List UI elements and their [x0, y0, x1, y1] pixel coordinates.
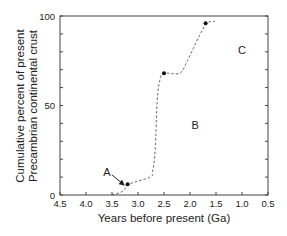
y-tick-label: 0	[50, 190, 55, 201]
plot-border	[60, 16, 268, 195]
y-axis-title-line-1: Cumulative percent of present	[14, 28, 26, 182]
annotation-c: C	[238, 44, 246, 56]
data-point-marker	[162, 71, 166, 75]
y-axis-ticks: 050100	[39, 11, 268, 201]
annotations: ABC	[103, 44, 246, 185]
x-tick-label: 2.5	[157, 198, 170, 209]
y-axis-title: Cumulative percent of present Precambria…	[14, 28, 39, 182]
y-axis-title-line-2: Precambrian continental crust	[27, 29, 39, 182]
plot-frame	[60, 16, 268, 195]
y-tick-label: 50	[44, 100, 55, 111]
y-tick-label: 100	[39, 11, 55, 22]
x-tick-label: 0.5	[261, 198, 274, 209]
data-point-marker	[204, 21, 208, 25]
x-axis-title: Years before present (Ga)	[98, 212, 231, 224]
x-tick-label: 2.0	[183, 198, 196, 209]
x-tick-label: 3.5	[105, 198, 118, 209]
x-tick-label: 1.5	[209, 198, 222, 209]
data-markers	[126, 21, 208, 186]
crust-growth-line	[112, 21, 215, 195]
annotation-b: B	[192, 119, 199, 131]
crust-growth-chart: 4.54.03.53.02.52.01.51.00.5 050100 ABC Y…	[0, 0, 287, 236]
data-series	[112, 21, 215, 195]
x-tick-label: 3.0	[131, 198, 144, 209]
x-tick-label: 4.0	[79, 198, 92, 209]
x-tick-label: 4.5	[53, 198, 66, 209]
annotation-arrow	[112, 175, 124, 185]
x-tick-label: 1.0	[235, 198, 248, 209]
data-point-marker	[126, 182, 130, 186]
annotation-a: A	[103, 166, 111, 178]
